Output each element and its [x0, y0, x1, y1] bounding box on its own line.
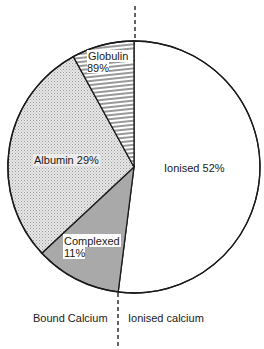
- globulin-label-line1: Globulin: [88, 50, 128, 62]
- ionised-label: Ionised 52%: [164, 162, 225, 174]
- complexed-label-line1: Complexed: [64, 235, 120, 247]
- ionised-calcium-caption: Ionised calcium: [128, 312, 204, 324]
- globulin-label-line2: 89%: [87, 62, 109, 74]
- albumin-label: Albumin 29%: [34, 154, 99, 166]
- complexed-label-line2: 11%: [64, 247, 85, 259]
- bound-calcium-caption: Bound Calcium: [33, 312, 108, 324]
- calcium-pie-chart: Globulin 89% Albumin 29% Ionised 52% Com…: [0, 0, 264, 349]
